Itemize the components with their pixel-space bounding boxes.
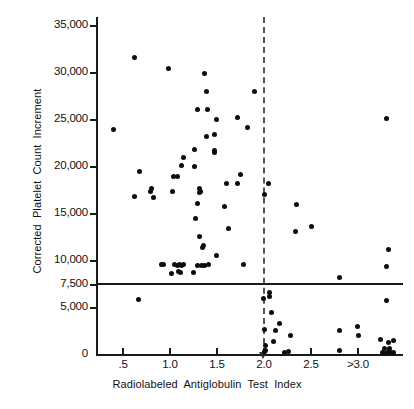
data-point bbox=[273, 328, 278, 333]
data-point bbox=[197, 190, 202, 195]
y-axis-line bbox=[96, 17, 98, 356]
data-point bbox=[238, 172, 243, 177]
data-point bbox=[137, 169, 142, 174]
x-tick-label: .5 bbox=[118, 358, 127, 370]
data-point bbox=[337, 328, 342, 333]
x-tick-mark bbox=[169, 348, 171, 355]
data-point bbox=[391, 338, 396, 343]
data-point bbox=[136, 297, 141, 302]
y-tick-mark bbox=[90, 119, 96, 121]
data-point bbox=[391, 350, 396, 355]
data-point bbox=[205, 107, 210, 112]
data-point bbox=[200, 245, 205, 250]
y-tick-mark bbox=[90, 307, 96, 309]
y-tick-label: 20,000 bbox=[54, 159, 88, 171]
data-point bbox=[181, 155, 186, 160]
data-point bbox=[214, 117, 219, 122]
data-point bbox=[277, 321, 282, 326]
data-point bbox=[161, 262, 166, 267]
data-point bbox=[206, 262, 211, 267]
x-axis-title: Radiolabeled Antiglobulin Test Index bbox=[0, 378, 414, 390]
x-tick-label: 2.0 bbox=[256, 358, 271, 370]
data-point bbox=[178, 270, 183, 275]
data-point bbox=[226, 226, 231, 231]
data-point bbox=[202, 71, 207, 76]
data-point bbox=[355, 324, 360, 329]
x-tick-label: >3.0 bbox=[347, 358, 369, 370]
data-point bbox=[288, 333, 293, 338]
data-point bbox=[195, 107, 200, 112]
data-point bbox=[212, 132, 217, 137]
y-tick-mark bbox=[90, 72, 96, 74]
y-tick-label: 7,500 bbox=[60, 277, 88, 289]
data-point bbox=[262, 327, 267, 332]
x-tick-label: 1.0 bbox=[162, 358, 177, 370]
y-tick-label: 35,000 bbox=[54, 18, 88, 30]
data-point bbox=[386, 247, 391, 252]
data-point bbox=[356, 333, 361, 338]
x-tick-mark bbox=[122, 348, 124, 355]
data-point bbox=[214, 253, 219, 258]
data-point bbox=[148, 189, 153, 194]
data-point bbox=[267, 294, 272, 299]
data-point bbox=[261, 296, 266, 301]
data-point bbox=[386, 340, 391, 345]
data-point bbox=[192, 147, 197, 152]
y-tick-label: 30,000 bbox=[54, 65, 88, 77]
data-point bbox=[132, 55, 137, 60]
x-tick-label: 1.5 bbox=[209, 358, 224, 370]
data-point bbox=[181, 262, 186, 267]
data-point bbox=[191, 270, 196, 275]
data-point bbox=[132, 194, 137, 199]
data-point bbox=[293, 229, 298, 234]
scatter-plot-figure: 35,00030,00025,00020,00015,00010,0007,50… bbox=[0, 0, 414, 409]
data-point bbox=[241, 262, 246, 267]
data-point bbox=[252, 89, 257, 94]
data-point bbox=[235, 181, 240, 186]
data-point bbox=[170, 189, 175, 194]
data-point bbox=[384, 298, 389, 303]
data-point bbox=[195, 201, 200, 206]
data-point bbox=[235, 115, 240, 120]
data-point bbox=[212, 150, 217, 155]
x-tick-label: 2.5 bbox=[303, 358, 318, 370]
data-point bbox=[294, 202, 299, 207]
threshold-line-7500 bbox=[96, 283, 403, 285]
y-tick-mark bbox=[90, 166, 96, 168]
data-point bbox=[271, 339, 276, 344]
x-tick-mark bbox=[310, 348, 312, 355]
plot-area: 35,00030,00025,00020,00015,00010,0007,50… bbox=[0, 0, 414, 409]
data-point bbox=[309, 224, 314, 229]
y-tick-mark bbox=[90, 213, 96, 215]
data-point bbox=[179, 163, 184, 168]
data-point bbox=[269, 310, 274, 315]
data-point bbox=[382, 346, 387, 351]
data-point bbox=[192, 164, 197, 169]
y-tick-label: 10,000 bbox=[54, 253, 88, 265]
y-tick-mark bbox=[90, 260, 96, 262]
y-tick-label: 15,000 bbox=[54, 206, 88, 218]
data-point bbox=[204, 134, 209, 139]
y-axis-title: Corrected Platelet Count Increment bbox=[31, 61, 43, 301]
x-tick-mark bbox=[216, 348, 218, 355]
y-tick-label: 25,000 bbox=[54, 112, 88, 124]
data-point bbox=[384, 264, 389, 269]
data-point bbox=[175, 174, 180, 179]
data-point bbox=[263, 348, 268, 353]
data-point bbox=[266, 181, 271, 186]
data-point bbox=[169, 271, 174, 276]
y-tick-mark bbox=[90, 284, 96, 286]
y-tick-label: 0 bbox=[82, 347, 88, 359]
data-point bbox=[337, 348, 342, 353]
data-point bbox=[193, 216, 198, 221]
data-point bbox=[245, 125, 250, 130]
data-point bbox=[111, 127, 116, 132]
data-point bbox=[204, 89, 209, 94]
y-tick-mark bbox=[90, 25, 96, 27]
data-point bbox=[337, 275, 342, 280]
y-tick-label: 5,000 bbox=[60, 300, 88, 312]
x-tick-mark bbox=[357, 348, 359, 355]
cutoff-line-2-0 bbox=[263, 17, 265, 354]
data-point bbox=[151, 195, 156, 200]
data-point bbox=[262, 192, 267, 197]
